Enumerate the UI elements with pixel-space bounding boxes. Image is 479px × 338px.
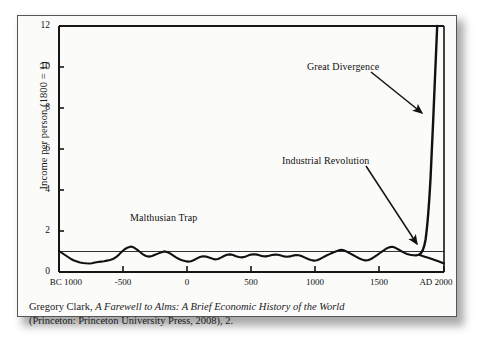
x-tick-label-1000: 1000 (306, 277, 324, 287)
series-great-divergence-line (419, 26, 437, 255)
page-background: Income per person (1800 = 1) (0, 0, 479, 338)
y-tick-label-0: 0 (28, 266, 50, 276)
chart-plot-area (18, 16, 456, 294)
annotation-industrial-revolution: Industrial Revolution (282, 155, 369, 166)
x-tick-label-500: 500 (244, 277, 258, 287)
y-tick-label-12: 12 (28, 20, 50, 30)
chart-figure: Income per person (1800 = 1) (18, 16, 456, 294)
y-tick-label-4: 4 (28, 184, 50, 194)
x-tick-label-minus500: -500 (115, 277, 132, 287)
series-poor-world-line (419, 255, 444, 264)
x-tick-label-1500: 1500 (370, 277, 388, 287)
y-tick-label-10: 10 (28, 61, 50, 71)
y-tick-label-6: 6 (28, 143, 50, 153)
y-tick-label-2: 2 (28, 225, 50, 235)
x-tick-label-0: 0 (185, 277, 190, 287)
caption-book-title: A Farewell to Alms: A Brief Economic His… (95, 301, 344, 312)
caption-author: Gregory Clark, (29, 301, 95, 312)
figure-card: Income per person (1800 = 1) (17, 15, 457, 317)
annotation-malthusian-trap: Malthusian Trap (130, 212, 197, 223)
figure-caption: Gregory Clark, A Farewell to Alms: A Bri… (29, 300, 447, 327)
industrial-revolution-arrow (366, 166, 417, 244)
caption-publisher: (Princeton: Princeton University Press, … (29, 315, 233, 326)
series-malthusian-line (59, 247, 419, 264)
x-tick-label-bc1000: BC 1000 (50, 277, 82, 287)
y-tick-label-8: 8 (28, 102, 50, 112)
great-divergence-arrow (371, 72, 422, 113)
annotation-great-divergence: Great Divergence (307, 61, 379, 72)
axis-frame (59, 26, 444, 272)
x-tick-label-ad2000: AD 2000 (419, 277, 452, 287)
